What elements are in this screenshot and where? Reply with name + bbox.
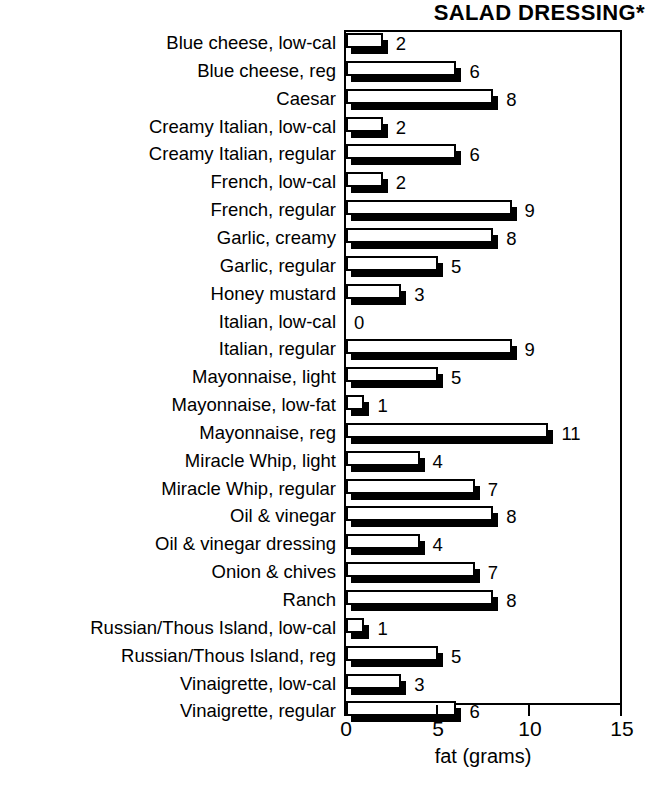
bar: 8 bbox=[346, 89, 493, 112]
bar: 4 bbox=[346, 534, 420, 557]
bar-category-label: Oil & vinegar bbox=[0, 503, 336, 531]
bar-face bbox=[346, 451, 420, 466]
bar-category-label: Blue cheese, low-cal bbox=[0, 30, 336, 58]
bar-category-label: Italian, regular bbox=[0, 336, 336, 364]
bar-category-label: Onion & chives bbox=[0, 559, 336, 587]
bar-face bbox=[346, 61, 456, 76]
bar-category-label: Mayonnaise, reg bbox=[0, 420, 336, 448]
bar-row: Russian/Thous Island, low-cal1 bbox=[0, 615, 657, 643]
bar: 4 bbox=[346, 451, 420, 474]
bar-row: Honey mustard3 bbox=[0, 281, 657, 309]
bar-category-label: French, low-cal bbox=[0, 169, 336, 197]
bar: 7 bbox=[346, 479, 475, 502]
bar: 2 bbox=[346, 172, 383, 195]
bar-category-label: Mayonnaise, low-fat bbox=[0, 392, 336, 420]
bar-row: Creamy Italian, low-cal2 bbox=[0, 114, 657, 142]
bar-category-label: Russian/Thous Island, reg bbox=[0, 643, 336, 671]
bar: 3 bbox=[346, 284, 401, 307]
bar-face bbox=[346, 590, 493, 605]
bar-row: Mayonnaise, reg11 bbox=[0, 420, 657, 448]
bar-row: French, low-cal2 bbox=[0, 169, 657, 197]
bar-row: French, regular9 bbox=[0, 197, 657, 225]
bar-face bbox=[346, 339, 512, 354]
bar-category-label: Caesar bbox=[0, 86, 336, 114]
bar-row: Vinaigrette, low-cal3 bbox=[0, 671, 657, 699]
bar-face bbox=[346, 395, 364, 410]
bar-rows-container: Blue cheese, low-cal2Blue cheese, reg6Ca… bbox=[0, 30, 657, 705]
x-axis-tick-label: 0 bbox=[316, 717, 376, 741]
x-axis-title: fat (grams) bbox=[344, 745, 622, 768]
bar-value-label: 5 bbox=[451, 255, 461, 278]
bar: 2 bbox=[346, 33, 383, 56]
bar-row: Italian, regular9 bbox=[0, 336, 657, 364]
bar-value-label: 7 bbox=[488, 561, 498, 584]
bar: 11 bbox=[346, 423, 548, 446]
bar-row: Ranch8 bbox=[0, 587, 657, 615]
x-axis-tick bbox=[528, 705, 530, 716]
bar-category-label: Ranch bbox=[0, 587, 336, 615]
bar-face bbox=[346, 144, 456, 159]
x-axis-tick-label: 10 bbox=[500, 717, 560, 741]
bar-category-label: Mayonnaise, light bbox=[0, 364, 336, 392]
bar: 8 bbox=[346, 590, 493, 613]
bar-value-label: 1 bbox=[377, 617, 387, 640]
bar: 5 bbox=[346, 646, 438, 669]
bar-category-label: Creamy Italian, regular bbox=[0, 141, 336, 169]
bar-row: Miracle Whip, regular7 bbox=[0, 476, 657, 504]
bar-category-label: Miracle Whip, light bbox=[0, 448, 336, 476]
bar-face bbox=[346, 618, 364, 633]
bar: 5 bbox=[346, 367, 438, 390]
bar-row: Miracle Whip, light4 bbox=[0, 448, 657, 476]
x-axis-tick-label: 5 bbox=[408, 717, 468, 741]
bar-category-label: Garlic, creamy bbox=[0, 225, 336, 253]
bar-row: Russian/Thous Island, reg5 bbox=[0, 643, 657, 671]
bar-row: Creamy Italian, regular6 bbox=[0, 141, 657, 169]
bar: 6 bbox=[346, 144, 456, 167]
bar-value-label: 7 bbox=[488, 478, 498, 501]
bar: 8 bbox=[346, 506, 493, 529]
bar-value-label: 9 bbox=[525, 338, 535, 361]
bar-face bbox=[346, 506, 493, 521]
bar-category-label: French, regular bbox=[0, 197, 336, 225]
bar-category-label: Garlic, regular bbox=[0, 253, 336, 281]
bar-value-label: 4 bbox=[433, 533, 443, 556]
bar-value-label: 8 bbox=[506, 589, 516, 612]
bar-category-label: Creamy Italian, low-cal bbox=[0, 114, 336, 142]
bar-value-label: 8 bbox=[506, 88, 516, 111]
bar-face bbox=[346, 646, 438, 661]
bar: 7 bbox=[346, 562, 475, 585]
bar-value-label: 1 bbox=[377, 394, 387, 417]
bar-row: Italian, low-cal0 bbox=[0, 309, 657, 337]
bar-value-label: 2 bbox=[396, 171, 406, 194]
chart-page: SALAD DRESSING* Blue cheese, low-cal2Blu… bbox=[0, 0, 657, 792]
bar-row: Onion & chives7 bbox=[0, 559, 657, 587]
bar-value-label: 9 bbox=[525, 199, 535, 222]
bar-category-label: Oil & vinegar dressing bbox=[0, 531, 336, 559]
bar-face bbox=[346, 117, 383, 132]
bar-face bbox=[346, 228, 493, 243]
bar-face bbox=[346, 256, 438, 271]
bar-value-label: 8 bbox=[506, 505, 516, 528]
bar-face bbox=[346, 479, 475, 494]
bar-row: Blue cheese, low-cal2 bbox=[0, 30, 657, 58]
bar-value-label: 11 bbox=[561, 422, 580, 445]
bar-category-label: Russian/Thous Island, low-cal bbox=[0, 615, 336, 643]
bar-face bbox=[346, 562, 475, 577]
bar-value-label: 6 bbox=[469, 60, 479, 83]
bar-value-label: 5 bbox=[451, 645, 461, 668]
bar: 6 bbox=[346, 61, 456, 84]
bar-row: Oil & vinegar dressing4 bbox=[0, 531, 657, 559]
bar-face bbox=[346, 200, 512, 215]
bar: 1 bbox=[346, 618, 364, 641]
bar-value-label: 0 bbox=[354, 311, 364, 334]
bar-face bbox=[346, 89, 493, 104]
x-axis-tick bbox=[344, 705, 346, 716]
bar: 1 bbox=[346, 395, 364, 418]
bar-face bbox=[346, 33, 383, 48]
bar: 9 bbox=[346, 200, 512, 223]
bar-face bbox=[346, 674, 401, 689]
bar-category-label: Vinaigrette, regular bbox=[0, 698, 336, 726]
bar-value-label: 6 bbox=[469, 143, 479, 166]
chart-title: SALAD DRESSING* bbox=[0, 1, 645, 25]
bar-value-label: 2 bbox=[396, 116, 406, 139]
